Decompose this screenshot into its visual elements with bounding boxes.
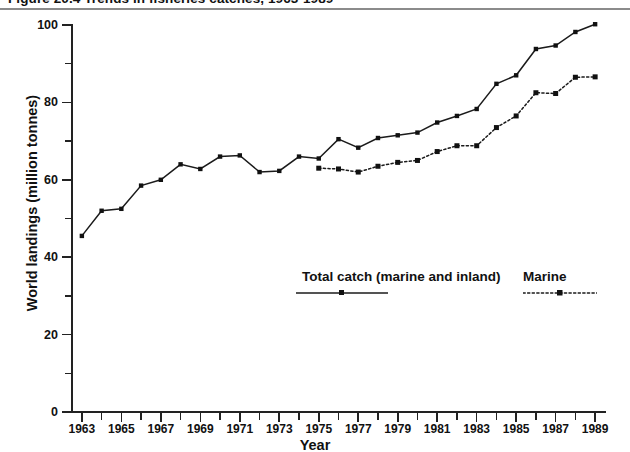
data-point-marker [514, 113, 519, 118]
data-point-marker [435, 149, 440, 154]
data-point-marker [435, 120, 439, 124]
data-point-marker [159, 178, 163, 182]
data-point-marker [553, 43, 557, 47]
data-point-marker [533, 90, 538, 95]
data-point-marker [534, 47, 538, 51]
plot-canvas [0, 0, 630, 452]
data-point-marker [415, 158, 420, 163]
data-point-marker [474, 143, 479, 148]
data-point-marker [573, 75, 578, 80]
data-point-marker [238, 153, 242, 157]
data-point-marker [396, 133, 400, 137]
data-point-marker [316, 166, 321, 171]
data-point-marker [356, 145, 360, 149]
data-point-marker [277, 169, 281, 173]
data-point-marker [593, 22, 597, 26]
data-point-marker [454, 143, 459, 148]
data-point-marker [514, 73, 518, 77]
data-point-marker [139, 183, 143, 187]
data-point-marker [317, 156, 321, 160]
series-total-catch [80, 22, 598, 238]
data-point-marker [395, 160, 400, 165]
data-point-marker [553, 91, 558, 96]
data-point-marker [119, 207, 123, 211]
data-point-marker [494, 82, 498, 86]
data-point-marker [297, 154, 301, 158]
data-point-marker [415, 130, 419, 134]
data-point-marker [336, 137, 340, 141]
series-path [82, 24, 595, 236]
data-point-marker [474, 107, 478, 111]
data-point-marker [375, 164, 380, 169]
data-point-marker [198, 167, 202, 171]
data-point-marker [218, 154, 222, 158]
data-point-marker [99, 209, 103, 213]
data-point-marker [573, 30, 577, 34]
series-marine [316, 74, 597, 174]
figure-root: Figure 20.4 Trends in fisheries catches,… [0, 0, 630, 452]
data-point-marker [336, 166, 341, 171]
data-point-marker [257, 170, 261, 174]
data-point-marker [80, 234, 84, 238]
data-point-marker [356, 170, 361, 175]
data-point-marker [376, 136, 380, 140]
data-point-marker [455, 114, 459, 118]
data-point-marker [593, 74, 598, 79]
data-point-marker [494, 125, 499, 130]
data-point-marker [178, 162, 182, 166]
